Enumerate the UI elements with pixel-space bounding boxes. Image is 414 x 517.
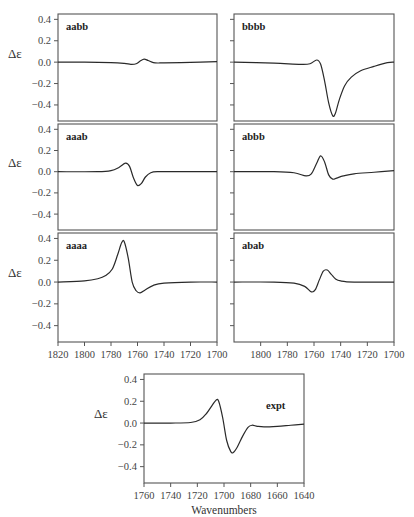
panel-aaaa: 0.40.20.0−0.2−0.4Δε182018001780176017401…	[8, 233, 228, 360]
panel-label: abbb	[242, 131, 265, 142]
x-tick-label: 1820	[48, 349, 69, 360]
panel-label: expt	[266, 400, 286, 411]
y-axis-label: Δε	[8, 155, 22, 170]
panel-label: aaaa	[66, 240, 88, 251]
y-tick-label: −0.4	[118, 461, 138, 472]
spectrum-curve	[234, 156, 394, 179]
spectrum-curve	[58, 163, 217, 186]
panel-label: abab	[242, 240, 264, 251]
y-tick-label: −0.2	[118, 439, 137, 450]
x-tick-label: 1700	[207, 349, 228, 360]
y-axis-label: Δε	[8, 265, 22, 280]
x-tick-label: 1700	[214, 490, 235, 501]
x-tick-label: 1740	[160, 490, 181, 501]
y-tick-label: 0.2	[38, 255, 51, 266]
x-tick-label: 1760	[134, 490, 155, 501]
x-tick-label: 1740	[154, 349, 175, 360]
y-tick-label: −0.2	[32, 78, 51, 89]
y-tick-label: 0.4	[38, 233, 52, 244]
y-axis-label: Δε	[8, 46, 22, 61]
spectrum-curve	[234, 60, 394, 116]
y-tick-label: 0.2	[124, 396, 137, 407]
panel-abbb: abbb	[230, 124, 394, 230]
x-tick-label: 1720	[180, 349, 201, 360]
y-tick-label: 0.0	[38, 166, 51, 177]
x-tick-label: 1700	[384, 349, 405, 360]
x-tick-label: 1800	[74, 349, 95, 360]
y-tick-label: 0.2	[38, 35, 51, 46]
panel-bbbb: bbbb	[230, 14, 394, 121]
x-tick-label: 1760	[127, 349, 148, 360]
y-tick-label: 0.0	[38, 57, 51, 68]
y-axis-label: Δε	[94, 406, 108, 421]
y-tick-label: −0.2	[32, 187, 51, 198]
spectrum-curve	[234, 270, 394, 292]
y-tick-label: 0.0	[124, 418, 137, 429]
x-tick-label: 1660	[267, 490, 288, 501]
y-tick-label: 0.4	[38, 124, 52, 135]
chart-figure: 0.40.20.0−0.2−0.4Δεaabbbbbb0.40.20.0−0.2…	[0, 0, 414, 517]
y-tick-label: −0.4	[32, 320, 52, 331]
y-tick-label: 0.2	[38, 145, 51, 156]
x-tick-label: 1720	[357, 349, 378, 360]
panel-expt: 0.40.20.0−0.2−0.4Δε176017401720170016801…	[94, 374, 315, 516]
panel-label: aabb	[66, 21, 88, 32]
spectrum-curve	[58, 59, 217, 64]
panel-label: bbbb	[242, 21, 266, 32]
panel-label: aaab	[66, 131, 88, 142]
y-tick-label: 0.0	[38, 277, 51, 288]
panel-aabb: 0.40.20.0−0.2−0.4Δεaabb	[8, 14, 217, 121]
y-tick-label: 0.4	[38, 14, 52, 25]
x-tick-label: 1740	[330, 349, 351, 360]
y-tick-label: −0.4	[32, 99, 52, 110]
x-tick-label: 1780	[277, 349, 298, 360]
x-tick-label: 1780	[101, 349, 122, 360]
y-tick-label: −0.2	[32, 298, 51, 309]
x-axis-label: Wavenumbers	[191, 504, 257, 516]
x-tick-label: 1800	[250, 349, 271, 360]
x-tick-label: 1720	[187, 490, 208, 501]
y-tick-label: −0.4	[32, 209, 52, 220]
panel-abab: 180017801760174017201700abab	[230, 233, 405, 360]
panel-aaab: 0.40.20.0−0.2−0.4Δεaaab	[8, 124, 217, 230]
x-tick-label: 1640	[294, 490, 315, 501]
y-tick-label: 0.4	[124, 374, 138, 385]
x-tick-label: 1760	[304, 349, 325, 360]
x-tick-label: 1680	[240, 490, 261, 501]
